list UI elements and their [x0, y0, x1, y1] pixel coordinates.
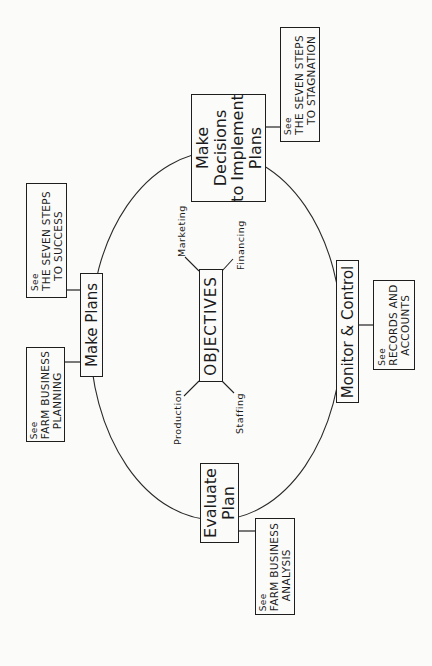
stage-line: to Implement: [229, 94, 247, 202]
reference-line: RECORDS AND: [387, 284, 399, 365]
objectives-label: OBJECTIVES: [203, 276, 220, 375]
aspect-production: Production: [172, 389, 183, 445]
aspect-financing: Financing: [235, 220, 246, 270]
stage-make-plans-label: Make Plans: [83, 283, 100, 367]
stage-make-decisions-label: Make Decisions to Implement Plans: [193, 94, 263, 202]
stage-monitor-control: Monitor & Control: [336, 260, 359, 403]
reference-line: FARM BUSINESS: [268, 522, 280, 610]
aspect-marketing: Marketing: [176, 205, 187, 257]
reference-seven-steps-success: See THE SEVEN STEPS TO SUCCESS: [26, 183, 67, 298]
tick-production: [184, 381, 199, 396]
tick-staffing: [222, 381, 234, 393]
stage-line: Make: [193, 94, 211, 202]
stage-line: Decisions: [211, 94, 229, 202]
reference-line: ANALYSIS: [280, 522, 292, 610]
reference-text: See FARM BUSINESS ANALYSIS: [258, 522, 292, 610]
reference-text: See THE SEVEN STEPS TO SUCCESS: [29, 191, 63, 291]
stage-line: Plan: [220, 468, 238, 538]
reference-line: TO STAGNATION: [305, 35, 317, 135]
objectives-box: OBJECTIVES: [199, 269, 223, 382]
tick-marketing: [185, 257, 199, 271]
reference-line: PLANNING: [51, 350, 63, 438]
stage-line: Evaluate: [202, 468, 220, 538]
stage-make-decisions: Make Decisions to Implement Plans: [191, 94, 266, 202]
see-label: See: [377, 284, 387, 365]
stage-monitor-control-label: Monitor & Control: [339, 265, 356, 397]
stage-make-plans: Make Plans: [80, 273, 103, 377]
stage-evaluate-plan: Evaluate Plan: [200, 463, 239, 543]
aspect-staffing: Staffing: [234, 393, 245, 434]
reference-farm-business-planning: See FARM BUSINESS PLANNING: [26, 347, 65, 442]
reference-seven-steps-stagnation: See THE SEVEN STEPS TO STAGNATION: [280, 27, 320, 142]
tick-financing: [222, 259, 233, 271]
reference-farm-business-analysis: See FARM BUSINESS ANALYSIS: [255, 518, 295, 615]
reference-text: See RECORDS AND ACCOUNTS: [377, 284, 411, 365]
reference-line: THE SEVEN STEPS: [40, 191, 52, 291]
reference-line: THE SEVEN STEPS: [293, 35, 305, 135]
stage-line: Monitor & Control: [339, 265, 356, 397]
reference-text: See FARM BUSINESS PLANNING: [28, 350, 62, 438]
stage-line: Plans: [246, 94, 264, 202]
see-label: See: [258, 522, 268, 610]
see-label: See: [29, 191, 39, 291]
stage-line: Make Plans: [83, 283, 100, 367]
reference-line: TO SUCCESS: [52, 191, 64, 291]
stage-evaluate-plan-label: Evaluate Plan: [202, 468, 237, 538]
reference-records-accounts: See RECORDS AND ACCOUNTS: [373, 280, 415, 370]
reference-line: FARM BUSINESS: [39, 350, 51, 438]
reference-text: See THE SEVEN STEPS TO STAGNATION: [283, 35, 317, 135]
reference-line: ACCOUNTS: [399, 284, 411, 365]
see-label: See: [283, 35, 293, 135]
see-label: See: [28, 350, 38, 438]
